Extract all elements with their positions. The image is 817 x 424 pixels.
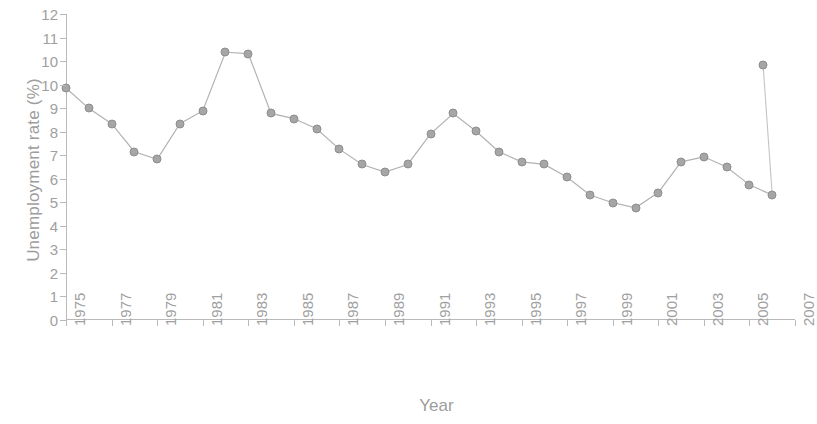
- y-axis-tick-mark: [60, 202, 66, 203]
- y-axis-tick-mark: [60, 226, 66, 227]
- data-point-marker: [677, 157, 686, 166]
- y-axis-tick-label: 2: [2, 265, 58, 280]
- y-axis-tick-mark: [60, 38, 66, 39]
- data-point-marker: [563, 173, 572, 182]
- x-axis-tick-label: 1979: [163, 293, 178, 326]
- x-axis-tick-label: 1991: [437, 293, 452, 326]
- data-point-marker: [244, 49, 253, 58]
- y-axis-tick-mark: [60, 85, 66, 86]
- y-axis-tick-label: 0: [2, 313, 58, 328]
- data-point-marker: [540, 160, 549, 169]
- x-axis-title: Year: [0, 396, 813, 416]
- y-axis-tick-label: 11: [2, 30, 58, 45]
- data-point-marker: [494, 147, 503, 156]
- y-axis-tick-mark: [60, 296, 66, 297]
- x-axis-tick-label: 1981: [209, 293, 224, 326]
- y-axis-tick-mark: [60, 273, 66, 274]
- data-series-unemployment-rate: [66, 14, 795, 320]
- y-axis-tick-mark: [60, 61, 66, 62]
- x-axis-tick-label: 2003: [710, 293, 725, 326]
- data-point-marker: [84, 104, 93, 113]
- data-point-marker: [631, 203, 640, 212]
- data-point-marker: [198, 106, 207, 115]
- y-axis-tick-label: 10: [2, 77, 58, 92]
- x-axis-tick-label: 1985: [300, 293, 315, 326]
- data-point-marker: [517, 157, 526, 166]
- y-axis-tick-label: 12: [2, 7, 58, 22]
- x-axis-tick-label: 1975: [72, 293, 87, 326]
- data-point-marker: [745, 180, 754, 189]
- y-axis-tick-mark: [60, 179, 66, 180]
- x-axis-tick-label: 2001: [664, 293, 679, 326]
- x-axis-tick-label: 1983: [254, 293, 269, 326]
- y-axis-tick-label: 4: [2, 218, 58, 233]
- data-point-marker: [153, 155, 162, 164]
- y-axis-tick-label: 1: [2, 289, 58, 304]
- data-point-marker: [759, 61, 768, 70]
- data-point-marker: [130, 147, 139, 156]
- y-axis-tick-label: 7: [2, 148, 58, 163]
- data-point-marker: [312, 124, 321, 133]
- x-axis-tick-label: 1997: [573, 293, 588, 326]
- x-axis-tick-label: 1987: [345, 293, 360, 326]
- data-point-marker: [403, 160, 412, 169]
- data-point-marker: [608, 198, 617, 207]
- y-axis-tick-label: 6: [2, 171, 58, 186]
- y-axis-tick-label: 3: [2, 242, 58, 257]
- data-point-marker: [175, 119, 184, 128]
- data-point-marker: [585, 191, 594, 200]
- y-axis-tick-mark: [60, 14, 66, 15]
- x-axis-tick-label: 1977: [118, 293, 133, 326]
- x-axis-tick-label: 1989: [391, 293, 406, 326]
- data-point-marker: [358, 160, 367, 169]
- x-axis-tick-mark: [795, 320, 796, 326]
- data-point-marker: [221, 48, 230, 57]
- x-axis-tick-label: 1999: [619, 293, 634, 326]
- y-axis-tick-mark: [60, 132, 66, 133]
- data-point-marker: [768, 191, 777, 200]
- data-point-marker: [654, 188, 663, 197]
- y-axis-tick-mark: [60, 155, 66, 156]
- y-axis-tick-mark: [60, 249, 66, 250]
- plot-area: [66, 14, 795, 320]
- data-point-marker: [335, 145, 344, 154]
- data-point-marker: [699, 152, 708, 161]
- y-axis-tick-label: 10: [2, 54, 58, 69]
- y-axis-tick-labels: 121110109876543210: [0, 0, 58, 424]
- data-point-marker: [426, 129, 435, 138]
- x-axis-tick-label: 1993: [482, 293, 497, 326]
- x-axis-tick-labels: 1975197719791981198319851987198919911993…: [66, 326, 795, 396]
- data-point-marker: [722, 163, 731, 172]
- series-polyline: [66, 14, 795, 320]
- x-axis-tick-label: 1995: [528, 293, 543, 326]
- y-axis-tick-mark: [60, 108, 66, 109]
- y-axis-tick-label: 9: [2, 101, 58, 116]
- data-point-marker: [472, 127, 481, 136]
- data-point-marker: [267, 109, 276, 118]
- data-point-marker: [380, 168, 389, 177]
- data-point-marker: [449, 109, 458, 118]
- x-axis-tick-label: 2005: [755, 293, 770, 326]
- x-axis-tick-label: 2007: [801, 293, 816, 326]
- data-point-marker: [289, 114, 298, 123]
- y-axis-tick-label: 5: [2, 195, 58, 210]
- data-point-marker: [107, 119, 116, 128]
- y-axis-tick-label: 8: [2, 124, 58, 139]
